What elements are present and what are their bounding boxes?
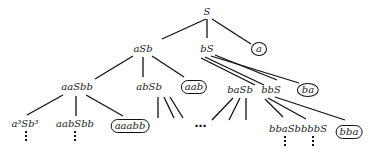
node-S: S	[204, 7, 211, 17]
node-bbaSb: bbaSb	[269, 124, 301, 134]
derivation-tree-diagram: S aSb bS a aaSbb abSb aab baSb bbS ba a³…	[0, 0, 377, 156]
node-bS: bS	[200, 44, 213, 54]
terminal-aaabb: aaabb	[111, 119, 150, 133]
node-bbbS: bbbS	[301, 124, 327, 134]
vertical-ellipsis-aabSbb	[74, 131, 76, 143]
terminal-bba: bba	[336, 125, 363, 139]
terminal-a: a	[251, 42, 267, 56]
node-aaSbb: aaSbb	[61, 82, 93, 92]
vertical-ellipsis-bbaSb	[284, 136, 286, 148]
node-bbS: bbS	[261, 85, 281, 95]
node-aSb: aSb	[133, 44, 152, 54]
terminal-aab: aab	[181, 80, 207, 94]
node-abSb: abSb	[136, 82, 162, 92]
node-aabSbb: aabSbb	[56, 119, 94, 129]
vertical-ellipsis-bbbS	[312, 136, 314, 148]
node-baSb: baSb	[227, 85, 253, 95]
continuation-ellipsis: ⋯	[195, 119, 208, 133]
node-a3Sb3: a³Sb³	[11, 119, 38, 129]
vertical-ellipsis-a3Sb3	[25, 131, 27, 143]
